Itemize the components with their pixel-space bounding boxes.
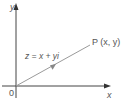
- x-axis-arrow-icon: [104, 84, 111, 89]
- vector-equation-label: z = x + yi: [25, 52, 59, 61]
- origin-label: 0: [9, 89, 14, 98]
- x-axis-label: x: [107, 91, 112, 100]
- y-axis-label: y: [10, 3, 15, 12]
- diagram-canvas: [0, 0, 125, 102]
- point-label: P (x, y): [92, 38, 120, 47]
- complex-plane-diagram: y x 0 z = x + yi P (x, y): [0, 0, 125, 102]
